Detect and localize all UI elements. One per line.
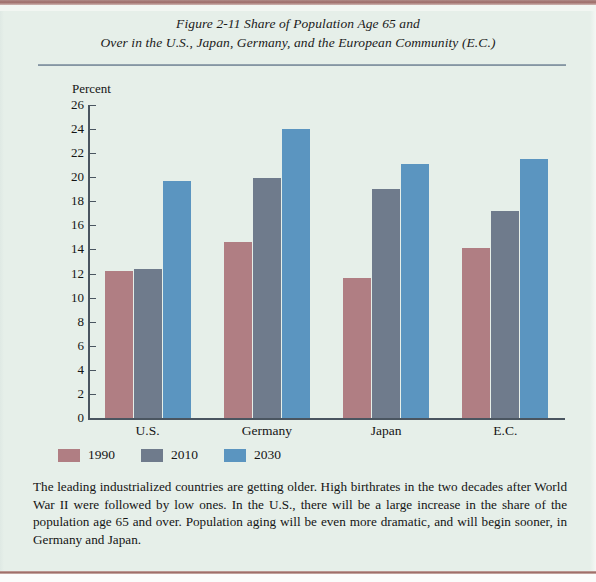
y-axis-tick <box>90 418 96 419</box>
bar-japan-2030 <box>401 164 429 418</box>
figure-caption: The leading industrialized countries are… <box>33 478 567 548</box>
bar-germany-1990 <box>224 242 252 418</box>
y-axis-tick-label: 12 <box>56 267 84 280</box>
y-axis-tick-label: 6 <box>56 339 84 352</box>
y-axis-tick-label: 16 <box>56 218 84 231</box>
y-axis-tick-label: 18 <box>56 194 84 207</box>
bar-series-layer <box>88 105 565 418</box>
y-axis-unit-label: Percent <box>72 81 111 97</box>
bar-germany-2030 <box>282 129 310 418</box>
x-axis-label-ec: E.C. <box>446 423 565 439</box>
legend-swatch-2010 <box>141 449 163 462</box>
legend-item-2010[interactable]: 2010 <box>141 447 198 463</box>
y-axis-tick-label: 20 <box>56 170 84 183</box>
y-axis-tick-label: 8 <box>56 315 84 328</box>
y-axis-tick-label: 0 <box>56 411 84 424</box>
bar-us-1990 <box>105 271 133 418</box>
y-axis-tick-label: 26 <box>56 98 84 111</box>
legend-item-2030[interactable]: 2030 <box>224 447 281 463</box>
y-axis-tick-label: 10 <box>56 291 84 304</box>
legend-swatch-1990 <box>58 449 80 462</box>
legend-label-2030: 2030 <box>254 447 281 463</box>
legend-label-2010: 2010 <box>171 447 198 463</box>
y-axis-tick-label: 4 <box>56 363 84 376</box>
x-axis-label-germany: Germany <box>207 423 326 439</box>
x-axis-line <box>88 418 565 420</box>
bar-us-2030 <box>163 181 191 418</box>
bar-japan-1990 <box>343 278 371 418</box>
legend-swatch-2030 <box>224 449 246 462</box>
y-axis-tick-label: 2 <box>56 387 84 400</box>
x-axis-label-japan: Japan <box>327 423 446 439</box>
y-axis-tick-label: 14 <box>56 242 84 255</box>
y-axis-tick-label: 22 <box>56 146 84 159</box>
legend-item-1990[interactable]: 1990 <box>58 447 115 463</box>
bar-germany-2010 <box>253 178 281 418</box>
bar-us-2010 <box>134 269 162 418</box>
x-axis-label-us: U.S. <box>88 423 207 439</box>
chart-legend: 199020102030 <box>58 446 307 464</box>
bar-ec-1990 <box>462 248 490 418</box>
bar-ec-2030 <box>520 159 548 418</box>
bar-ec-2010 <box>491 211 519 418</box>
legend-label-1990: 1990 <box>88 447 115 463</box>
bar-japan-2010 <box>372 189 400 418</box>
y-axis-tick-label: 24 <box>56 122 84 135</box>
